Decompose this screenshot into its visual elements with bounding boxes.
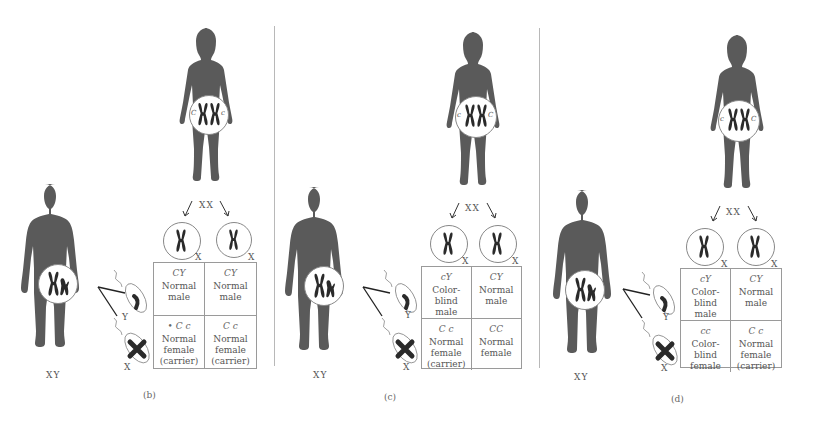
chromosome-circle-father <box>565 270 605 310</box>
x-chromosome-icon <box>491 231 503 257</box>
phenotype-line: Normal <box>213 281 247 292</box>
phenotype-line: Normal <box>162 334 196 345</box>
x-chromosome-icon <box>313 272 326 300</box>
y-chromosome-icon <box>60 277 69 296</box>
chromosome-circle-mother: C c <box>189 95 229 135</box>
x-chromosome-icon <box>739 106 751 134</box>
phenotype-line: male <box>435 307 457 318</box>
genotype: • C c <box>168 321 191 331</box>
punnett-cell: C cNormalfemale(carrier) <box>731 321 781 372</box>
phenotype-line: female <box>215 345 246 356</box>
panel-divider-1 <box>274 26 275 366</box>
genotype: CY <box>490 272 503 282</box>
chromosome-circle-mother: c C <box>718 100 760 142</box>
punnett-cell: CYNormalmale <box>731 269 781 321</box>
x-chromosome-icon <box>749 234 761 260</box>
punnett-square: cYColor-blindmale CYNormalmale C cNormal… <box>421 266 522 369</box>
phenotype-line: (carrier) <box>737 361 776 372</box>
phenotype-line: male <box>745 298 767 309</box>
sperm-chromosome-label: X <box>403 362 409 372</box>
punnett-cell: • C cNormalfemale(carrier) <box>154 316 205 369</box>
phenotype-line: (carrier) <box>427 359 466 370</box>
allele-label: c <box>720 115 724 123</box>
phenotype-line: Color-blind <box>681 339 730 361</box>
sperm-y-icon <box>382 268 422 318</box>
x-chromosome-icon <box>175 228 187 254</box>
phenotype-line: male <box>485 296 507 307</box>
phenotype-line: male <box>168 292 190 303</box>
x-chromosome-icon <box>209 101 221 128</box>
phenotype-line: Normal <box>213 334 247 345</box>
phenotype-line: female <box>164 345 195 356</box>
arrows-to-eggs-icon <box>437 200 517 222</box>
genotype: CY <box>173 268 186 278</box>
x-chromosome-icon <box>47 270 60 298</box>
punnett-square: CYNormalmale CYNormalmale • C cNormalfem… <box>153 262 257 369</box>
sperm-y-icon <box>112 268 152 318</box>
sperm-y-icon <box>640 270 680 320</box>
phenotype-line: Color-blind <box>681 287 730 309</box>
sperm-chromosome-label: X <box>124 362 130 372</box>
x-chromosome-icon <box>228 228 239 252</box>
phenotype-line: female <box>431 348 462 359</box>
panel-label: (d) <box>671 394 684 404</box>
punnett-cell: CYNormalmale <box>205 263 256 316</box>
punnett-cell: C cNormalfemale(carrier) <box>205 316 256 369</box>
genotype: CY <box>224 268 237 278</box>
punnett-cell: cYColor-blindmale <box>422 267 472 319</box>
x-chromosome-icon <box>727 106 739 134</box>
genotype: C c <box>749 326 764 336</box>
egg-cell <box>737 228 775 266</box>
chromosome-circle-father <box>304 266 344 306</box>
phenotype-line: Normal <box>162 281 196 292</box>
y-chromosome-icon <box>326 279 335 298</box>
punnett-cell: ccColor-blindfemale <box>681 321 731 372</box>
egg-chromosome-label: X <box>195 252 201 262</box>
phenotype-line: Normal <box>479 285 513 296</box>
phenotype-line: (carrier) <box>160 356 199 367</box>
allele-label: C <box>751 115 756 123</box>
phenotype-line: female <box>481 348 512 359</box>
genotype: C c <box>223 321 238 331</box>
x-chromosome-icon <box>197 101 209 128</box>
egg-chromosome-label: X <box>512 256 518 266</box>
punnett-cell: C cNormalfemale(carrier) <box>422 319 472 370</box>
genotype: cY <box>700 274 711 284</box>
y-chromosome-icon <box>587 283 596 302</box>
arrows-to-eggs-icon <box>698 203 778 225</box>
phenotype-line: Normal <box>429 337 463 348</box>
egg-cell <box>686 228 724 266</box>
genotype: CC <box>489 324 503 334</box>
panel-label: (b) <box>143 390 156 400</box>
phenotype-line: Color-blind <box>422 285 471 307</box>
punnett-cell: CYNormalmale <box>154 263 205 316</box>
phenotype-line: male <box>694 309 716 320</box>
x-chromosome-icon <box>574 276 587 304</box>
egg-chromosome-label: X <box>462 256 468 266</box>
sperm-x-icon <box>112 316 154 368</box>
allele-label: c <box>221 109 225 117</box>
father-karyotype: XY <box>46 370 60 380</box>
egg-chromosome-label: X <box>248 252 254 262</box>
chromosome-circle-mother: c C <box>455 96 497 138</box>
phenotype-line: Normal <box>739 339 773 350</box>
allele-label: C <box>191 109 196 117</box>
sperm-chromosome-label: X <box>661 363 667 373</box>
x-chromosome-icon <box>476 102 488 130</box>
chromosome-circle-father <box>38 264 78 304</box>
panel-divider-2 <box>539 28 540 368</box>
phenotype-line: Normal <box>479 337 513 348</box>
father-karyotype: XY <box>313 370 327 380</box>
phenotype-line: male <box>219 292 241 303</box>
phenotype-line: (carrier) <box>211 356 250 367</box>
phenotype-line: Normal <box>739 287 773 298</box>
arrows-to-eggs-icon <box>170 198 250 220</box>
punnett-cell: CCNormalfemale <box>472 319 522 370</box>
punnett-square: cYColor-blindmale CYNormalmale ccColor-b… <box>680 268 782 368</box>
x-chromosome-icon <box>442 231 454 257</box>
genotype: cc <box>700 326 710 336</box>
punnett-cell: CYNormalmale <box>472 267 522 319</box>
sperm-x-icon <box>380 316 422 368</box>
father-karyotype: XY <box>574 372 588 382</box>
genotype: CY <box>750 274 763 284</box>
